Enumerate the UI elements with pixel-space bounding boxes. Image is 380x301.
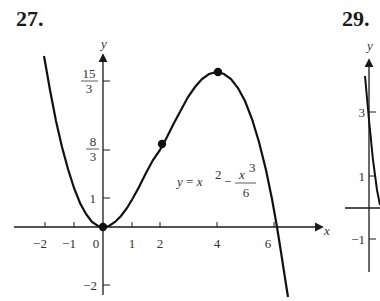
y-tick-label: 1 xyxy=(359,169,366,184)
svg-text:x: x xyxy=(238,167,245,182)
y-axis-label-29: y xyxy=(365,38,373,53)
svg-text:2: 2 xyxy=(215,167,222,182)
point-local-max xyxy=(214,68,222,76)
point-inflection xyxy=(158,140,166,148)
function-curve xyxy=(44,56,288,297)
y-tick-label-num: 15 xyxy=(83,66,96,81)
y-tick-label: 3 xyxy=(359,105,366,120)
svg-text:3: 3 xyxy=(249,160,256,175)
y-tick-label-den: 3 xyxy=(90,149,97,164)
y-axis-label: y xyxy=(99,36,107,51)
svg-text:6: 6 xyxy=(243,185,250,200)
y-tick-label-den: 3 xyxy=(86,81,93,96)
svg-text:y = x: y = x xyxy=(175,174,203,189)
x-tick-label: −2 xyxy=(33,236,47,251)
svg-text:−: − xyxy=(224,174,231,189)
x-tick-label: 0 xyxy=(93,236,100,251)
y-tick-label-num: 8 xyxy=(90,134,97,149)
chart-29: y 3 1 −1 xyxy=(345,38,380,272)
equation-label: y = x 2 − x 3 6 xyxy=(175,160,256,200)
x-tick-label: 6 xyxy=(265,236,272,251)
y-tick-label: −2 xyxy=(83,278,97,293)
x-tick-label: 2 xyxy=(157,236,164,251)
x-ticks xyxy=(45,222,274,227)
y-tick-label: 1 xyxy=(90,191,97,206)
y-tick-label: −1 xyxy=(351,232,365,247)
x-axis-label: x xyxy=(323,223,330,238)
x-tick-label: 1 xyxy=(129,236,136,251)
x-tick-label: 4 xyxy=(214,236,221,251)
y-ticks xyxy=(103,81,110,285)
chart-27: −2 −1 0 1 2 4 6 1 8 3 15 3 −2 y x y = x … xyxy=(0,0,380,301)
x-tick-label: −1 xyxy=(62,236,76,251)
function-curve-29 xyxy=(365,76,380,205)
point-local-min xyxy=(99,223,107,231)
